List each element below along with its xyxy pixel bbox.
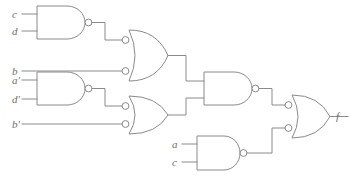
input-label-a-bottom: a — [172, 138, 178, 150]
input-label-d-top: d — [12, 25, 18, 37]
input-label-b-prime: b' — [12, 118, 21, 130]
input-label-d-prime: d' — [12, 93, 21, 105]
circuit-diagram-canvas: c d b a' d' b' a c f — [0, 0, 351, 177]
output-label-f: f — [336, 110, 341, 122]
input-label-c-bottom: c — [172, 156, 177, 168]
input-label-a-prime: a' — [12, 74, 21, 86]
signal-labels: c d b a' d' b' a c f — [0, 0, 351, 177]
input-label-c-top: c — [12, 8, 17, 20]
